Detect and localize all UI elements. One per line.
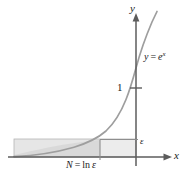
n-label-epsilon: ε bbox=[92, 159, 96, 170]
figure-container: y x 1 ε y=ex N=lnε bbox=[0, 0, 188, 179]
x-axis-arrowhead bbox=[164, 154, 173, 161]
epsilon-label: ε bbox=[140, 137, 144, 146]
y-tick-label-one: 1 bbox=[117, 82, 123, 93]
y-axis-label: y bbox=[130, 3, 135, 14]
curve-label-lhs: y bbox=[144, 51, 148, 62]
n-definition-label: N=lnε bbox=[66, 160, 96, 170]
n-label-ln: ln bbox=[82, 159, 90, 170]
plot-canvas bbox=[0, 0, 188, 179]
x-axis-label: x bbox=[174, 150, 179, 161]
y-axis-arrowhead bbox=[133, 13, 140, 22]
curve-label-equals: = bbox=[150, 51, 156, 62]
curve-label-exponent: x bbox=[163, 50, 166, 57]
n-label-lhs: N bbox=[66, 159, 73, 170]
curve-equation-label: y=ex bbox=[144, 51, 166, 62]
epsilon-band-right-light bbox=[100, 140, 136, 157]
n-label-equals: = bbox=[75, 159, 81, 170]
